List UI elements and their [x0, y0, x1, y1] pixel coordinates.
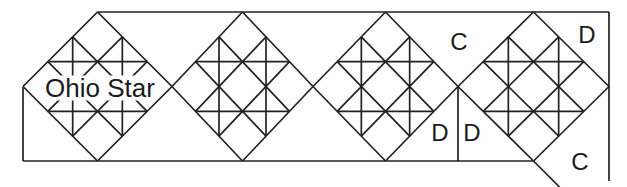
label-d-top-right: D [578, 21, 595, 48]
block-edge [458, 12, 534, 87]
grid-seam [508, 37, 583, 112]
grid-seam [337, 37, 410, 112]
labels-layer: Ohio StarCDDDC [45, 21, 596, 175]
grid-seam [483, 37, 559, 112]
corner-cut-line [534, 161, 560, 187]
block-edge [313, 87, 386, 162]
quilt-border-figure: Ohio StarCDDDC [0, 0, 627, 187]
grid-seam [508, 62, 583, 137]
block-edge [243, 12, 314, 87]
ohio-star-block-2 [172, 12, 313, 161]
block-edge [386, 12, 459, 87]
grid-seam [219, 62, 290, 137]
label-d-bottom-left: D [431, 119, 448, 146]
grid-seam [219, 37, 290, 112]
block-edge [534, 12, 610, 87]
block-edge [172, 12, 243, 87]
label-d-bottom-right: D [463, 119, 480, 146]
grid-seam [196, 62, 267, 137]
grid-seam [361, 62, 434, 137]
block-edge [172, 87, 243, 162]
grid-seam [337, 62, 410, 137]
block-edge [243, 87, 314, 162]
grid-seam [361, 37, 434, 112]
block-label-ohio-star: Ohio Star [45, 73, 155, 103]
grid-seam [196, 37, 267, 112]
block-edge [313, 12, 386, 87]
label-c-bottom-right: C [571, 148, 588, 175]
label-c-top: C [450, 28, 467, 55]
quilt-border-diagram: Ohio StarCDDDC [0, 0, 627, 187]
grid-seam [483, 62, 559, 137]
